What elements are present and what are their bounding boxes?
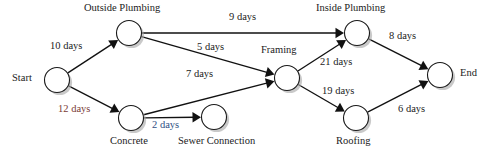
node-concrete[interactable] <box>119 106 147 134</box>
node-label-roofing: Roofing <box>336 136 370 147</box>
node-circle[interactable] <box>45 68 70 93</box>
edge-label-start-outside: 10 days <box>50 41 82 52</box>
node-end[interactable] <box>428 63 456 91</box>
edge-line <box>144 117 195 118</box>
node-circle[interactable] <box>119 106 144 131</box>
node-label-sewer: Sewer Connection <box>178 136 255 147</box>
node-outside[interactable] <box>117 21 145 49</box>
edge-label-framing-inside: 21 days <box>320 57 352 68</box>
edge-label-inside-end: 8 days <box>389 31 416 42</box>
edge-label-outside-inside: 9 days <box>229 12 256 23</box>
node-circle[interactable] <box>202 105 227 130</box>
node-start[interactable] <box>45 68 73 96</box>
node-label-start: Start <box>12 73 32 84</box>
node-label-inside: Inside Plumbing <box>316 3 385 14</box>
edge-inside-end <box>369 39 429 70</box>
node-label-concrete: Concrete <box>110 136 148 147</box>
node-label-framing: Framing <box>261 45 297 56</box>
arrowhead-icon <box>336 40 346 49</box>
edge-label-concrete-sewer: 2 days <box>152 120 179 131</box>
node-circle[interactable] <box>275 66 300 91</box>
edge-label-outside-framing: 5 days <box>197 42 224 53</box>
arrowhead-icon <box>265 78 275 88</box>
node-roofing[interactable] <box>344 106 372 134</box>
edge-line <box>369 39 423 67</box>
node-label-end: End <box>460 68 477 79</box>
network-graph-canvas <box>0 0 493 156</box>
edge-label-roofing-end: 6 days <box>398 104 425 115</box>
node-label-outside: Outside Plumbing <box>84 3 160 14</box>
edge-outside-inside <box>142 28 344 38</box>
node-inside[interactable] <box>345 21 373 49</box>
arrowhead-icon <box>108 40 118 49</box>
node-framing[interactable] <box>275 66 303 94</box>
node-circle[interactable] <box>345 21 370 46</box>
edge-label-concrete-framing: 7 days <box>186 69 213 80</box>
node-sewer[interactable] <box>202 105 230 133</box>
arrowhead-icon <box>265 67 275 77</box>
edge-label-framing-roofing: 19 days <box>322 86 354 97</box>
node-circle[interactable] <box>344 106 369 131</box>
edge-label-start-concrete: 12 days <box>58 104 90 115</box>
arrowhead-icon <box>192 112 201 122</box>
network-diagram: 10 days12 days9 days5 days2 days7 days21… <box>0 0 493 156</box>
node-circle[interactable] <box>117 21 142 46</box>
arrowhead-icon <box>336 28 345 38</box>
node-circle[interactable] <box>428 63 453 88</box>
